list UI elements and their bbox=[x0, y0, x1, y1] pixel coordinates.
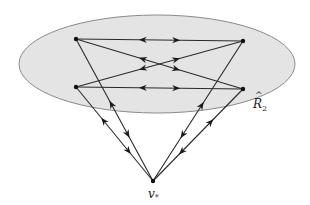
arrowhead-icon bbox=[123, 129, 130, 138]
node-vstar bbox=[151, 179, 155, 183]
node-tr bbox=[241, 39, 245, 43]
graph-diagram: R2 ^ v* bbox=[0, 0, 310, 205]
arrowhead-icon bbox=[181, 130, 188, 138]
node-tl bbox=[74, 37, 78, 41]
node-bl bbox=[74, 85, 78, 89]
region-label-hat: ^ bbox=[255, 90, 263, 100]
vstar-label: v* bbox=[148, 187, 159, 202]
node-br bbox=[241, 87, 245, 91]
